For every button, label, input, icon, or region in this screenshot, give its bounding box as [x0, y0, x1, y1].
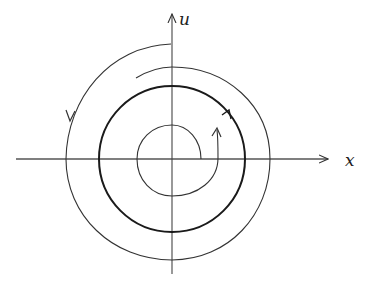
x-axis-label: x — [345, 150, 355, 170]
inner-trajectory — [137, 125, 221, 196]
outer-trajectory-arrow-icon — [66, 110, 75, 121]
inner-trajectory-arrow-icon — [212, 128, 221, 137]
u-axis-label: u — [179, 9, 190, 29]
outer-trajectory — [66, 44, 270, 260]
limit-cycle-arrow-icon — [222, 110, 231, 119]
phase-portrait-diagram: x u — [0, 0, 373, 285]
